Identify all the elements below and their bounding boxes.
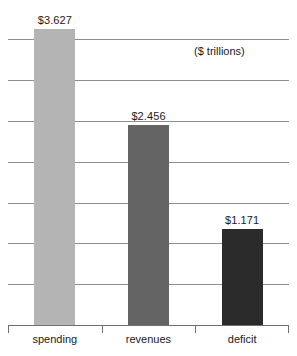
category-label-deficit: deficit — [195, 332, 289, 346]
bar-group-spending: $3.627 — [34, 29, 75, 325]
category-axis-line — [8, 325, 289, 326]
category-label-revenues: revenues — [102, 332, 196, 346]
bars-layer: $3.627 $2.456 $1.171 — [8, 20, 289, 326]
bar-value-label-spending: $3.627 — [38, 14, 72, 27]
units-annotation: ($ trillions) — [194, 44, 245, 58]
bar-group-revenues: $2.456 — [128, 125, 169, 325]
bar-group-deficit: $1.171 — [222, 229, 263, 325]
bar-chart: $3.627 $2.456 $1.171 spending revenues d… — [0, 0, 297, 356]
category-label-spending: spending — [8, 332, 102, 346]
bar-value-label-deficit: $1.171 — [225, 214, 259, 227]
bar-deficit[interactable] — [222, 229, 263, 325]
bar-revenues[interactable] — [128, 125, 169, 325]
plot-area: $3.627 $2.456 $1.171 — [8, 20, 289, 326]
bar-value-label-revenues: $2.456 — [131, 110, 165, 123]
category-axis-labels: spending revenues deficit — [8, 332, 289, 352]
bar-spending[interactable] — [34, 29, 75, 325]
